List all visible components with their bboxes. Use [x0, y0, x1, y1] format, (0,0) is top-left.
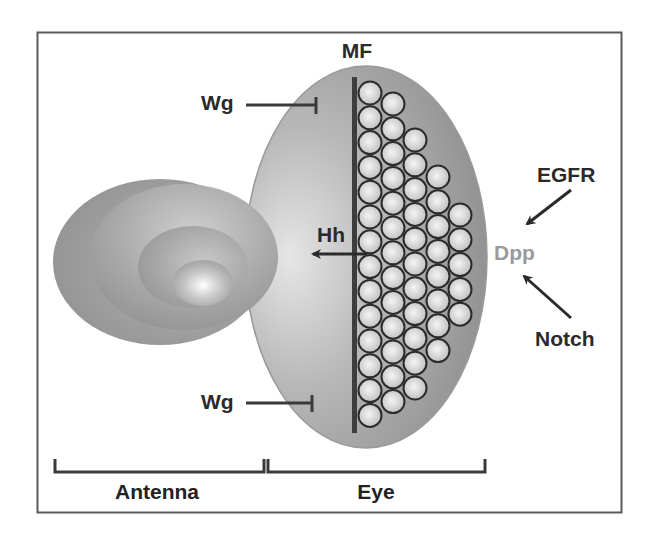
ommatidium [382, 117, 405, 140]
notch-signal: Notch [524, 276, 595, 350]
ommatidium [427, 215, 450, 238]
ommatidium [382, 266, 405, 289]
ommatidium [359, 131, 382, 154]
ommatidium [427, 166, 450, 189]
ommatidium [404, 253, 427, 276]
ommatidium [404, 153, 427, 176]
wg-bottom-label: Wg [201, 390, 234, 413]
ommatidium [359, 354, 382, 377]
ommatidium [427, 265, 450, 288]
antenna-ring-inner [173, 260, 233, 306]
ommatidium [427, 314, 450, 337]
ommatidium [427, 240, 450, 263]
ommatidium [382, 192, 405, 215]
ommatidium [404, 203, 427, 226]
eye-bracket: Eye [268, 459, 485, 503]
wg-top-label: Wg [201, 91, 234, 114]
antenna-disc [53, 179, 278, 345]
ommatidium [427, 190, 450, 213]
ommatidium [404, 302, 427, 325]
ommatidium [382, 291, 405, 314]
ommatidium [382, 142, 405, 165]
ommatidium [359, 82, 382, 105]
egfr-signal: EGFR [527, 163, 595, 224]
ommatidium [404, 277, 427, 300]
ommatidium [359, 106, 382, 129]
ommatidium [449, 278, 472, 301]
notch-arrow-icon [524, 276, 571, 318]
eye-region-label: Eye [357, 480, 394, 503]
eye-antennal-disc-diagram: MF Wg Wg Hh EGFR Dpp Notch Antenna Eye [0, 0, 649, 536]
ommatidium [449, 228, 472, 251]
ommatidium [382, 341, 405, 364]
antenna-region-label: Antenna [115, 480, 199, 503]
ommatidium [359, 379, 382, 402]
figure: MF Wg Wg Hh EGFR Dpp Notch Antenna Eye [0, 0, 649, 536]
ommatidium [404, 228, 427, 251]
ommatidium [382, 93, 405, 116]
ommatidium [449, 253, 472, 276]
ommatidium [382, 217, 405, 240]
hh-label: Hh [317, 223, 345, 246]
ommatidium [404, 377, 427, 400]
ommatidium [404, 327, 427, 350]
egfr-arrow-icon [527, 190, 571, 224]
ommatidium [382, 316, 405, 339]
ommatidium [382, 390, 405, 413]
ommatidium [449, 204, 472, 227]
ommatidium [359, 156, 382, 179]
ommatidium [427, 290, 450, 313]
ommatidium [359, 230, 382, 253]
ommatidium [359, 181, 382, 204]
ommatidium [427, 339, 450, 362]
ommatidium [359, 206, 382, 229]
ommatidium [404, 129, 427, 152]
ommatidium [382, 167, 405, 190]
ommatidium [359, 305, 382, 328]
notch-label: Notch [535, 327, 595, 350]
antenna-bracket: Antenna [55, 459, 264, 503]
egfr-label: EGFR [537, 163, 595, 186]
ommatidium [359, 280, 382, 303]
ommatidium [382, 241, 405, 264]
dpp-label: Dpp [494, 241, 535, 264]
ommatidium [359, 404, 382, 427]
ommatidium [404, 352, 427, 375]
ommatidium [382, 365, 405, 388]
mf-label: MF [342, 39, 372, 62]
ommatidium [404, 178, 427, 201]
ommatidium [449, 303, 472, 326]
ommatidium [359, 330, 382, 353]
ommatidium [359, 255, 382, 278]
